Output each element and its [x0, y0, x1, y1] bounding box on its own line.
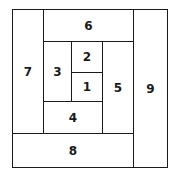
cell-8: 8 — [12, 133, 134, 168]
cell-5: 5 — [102, 41, 134, 134]
cell-4: 4 — [43, 101, 103, 134]
cell-7: 7 — [12, 9, 44, 134]
cell-9: 9 — [133, 9, 168, 168]
cell-6: 6 — [43, 9, 134, 42]
cell-3: 3 — [43, 41, 72, 102]
cell-2: 2 — [71, 41, 103, 73]
cell-1: 1 — [71, 72, 103, 102]
